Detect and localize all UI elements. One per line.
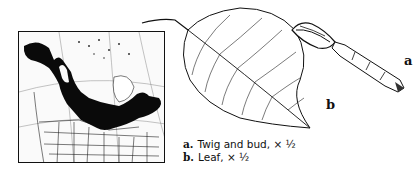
label-leaf: b — [326, 97, 335, 112]
leaf-drawing — [142, 8, 310, 128]
figure-caption: a.Twig and bud, × ½ b.Leaf, × ½ — [183, 138, 296, 164]
caption-line-twig: a.Twig and bud, × ½ — [183, 138, 296, 151]
label-twig: a — [404, 53, 412, 68]
caption-line-leaf: b.Leaf, × ½ — [183, 151, 296, 164]
caption-text: Twig and bud, × ½ — [197, 138, 295, 150]
twig-drawing — [292, 23, 404, 92]
caption-text: Leaf, × ½ — [198, 151, 249, 163]
caption-key: a. — [183, 138, 193, 150]
caption-key: b. — [183, 151, 194, 163]
